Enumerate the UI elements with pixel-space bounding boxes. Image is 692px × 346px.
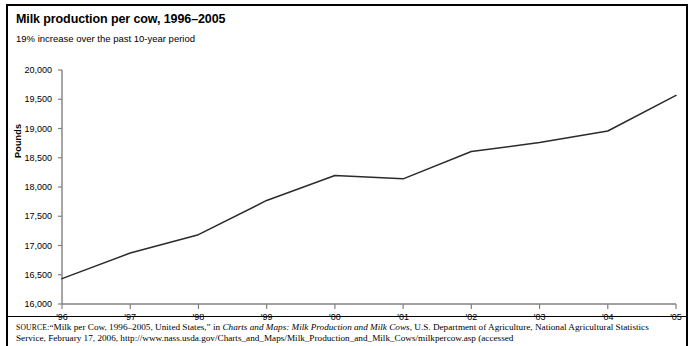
x-axis-tick-label: '99 <box>250 313 284 322</box>
x-axis-tick-label: '01 <box>386 313 420 322</box>
x-axis-tick-label: '05 <box>659 313 692 322</box>
y-axis-tick-label: 17,500 <box>6 212 52 221</box>
y-axis-tick-label: 18,000 <box>6 183 52 192</box>
plot-area: Pounds 20,00019,50019,00018,50018,00017,… <box>0 0 692 320</box>
x-axis-tick-label: '04 <box>591 313 625 322</box>
figure-container: Milk production per cow, 1996–2005 19% i… <box>0 0 692 346</box>
y-axis-tick-label: 19,000 <box>6 125 52 134</box>
source-italic-title: Charts and Maps: Milk Production and Mil… <box>222 322 409 332</box>
line-chart-svg <box>0 0 692 320</box>
x-axis-tick-label: '97 <box>113 313 147 322</box>
figure-bottom-left-rule <box>6 316 8 346</box>
y-axis-tick-label: 16,500 <box>6 271 52 280</box>
source-note: SOURCE:“Milk per Cow, 1996–2005, United … <box>16 322 680 345</box>
x-axis-tick-label: '02 <box>454 313 488 322</box>
x-axis-tick-label: '98 <box>181 313 215 322</box>
x-axis-tick-label: '00 <box>318 313 352 322</box>
x-axis-tick-label: '96 <box>45 313 79 322</box>
y-axis-tick-label: 19,500 <box>6 95 52 104</box>
y-axis-tick-label: 20,000 <box>6 66 52 75</box>
data-series-line <box>62 95 676 278</box>
y-axis-tick-label: 18,500 <box>6 154 52 163</box>
y-axis-tick-label: 17,000 <box>6 242 52 251</box>
source-label: SOURCE: <box>16 323 49 332</box>
x-axis-tick-label: '03 <box>523 313 557 322</box>
source-text-1: “Milk per Cow, 1996–2005, United States,… <box>49 322 222 332</box>
y-axis-tick-label: 16,000 <box>6 300 52 309</box>
